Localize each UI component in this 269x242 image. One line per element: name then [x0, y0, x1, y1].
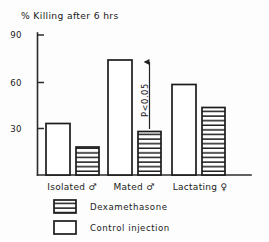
figure-container: % Killing after 6 hrs 90 60 30 P<0.05 Is…: [0, 0, 269, 242]
significance-label: P<0.05: [140, 83, 150, 117]
x-axis-label-lactating-female: Lactating ♀: [173, 182, 228, 192]
bar-dexamethasone-lactating-female: [202, 108, 225, 176]
y-tick-label-30: 30: [10, 124, 22, 134]
chart-title: % Killing after 6 hrs: [21, 10, 119, 21]
bar-control-lactating-female: [172, 85, 196, 176]
bar-chart: % Killing after 6 hrs 90 60 30 P<0.05 Is…: [0, 0, 269, 242]
x-axis-label-mated-male: Mated ♂: [113, 182, 154, 192]
bar-control-mated-male: [108, 60, 132, 175]
y-tick-label-90: 90: [10, 30, 22, 40]
bar-control-isolated-male: [46, 124, 70, 176]
y-tick-label-60: 60: [10, 78, 22, 88]
x-axis-label-isolated-male: Isolated ♂: [47, 182, 97, 192]
legend-swatch-control-injection: [54, 221, 76, 234]
bar-dexamethasone-isolated-male: [76, 147, 99, 175]
legend-label-dexamethasone: Dexamethasone: [90, 202, 167, 212]
legend-swatch-dexamethasone: [54, 200, 76, 213]
bar-dexamethasone-mated-male: [138, 132, 161, 176]
legend-label-control-injection: Control injection: [90, 223, 170, 233]
